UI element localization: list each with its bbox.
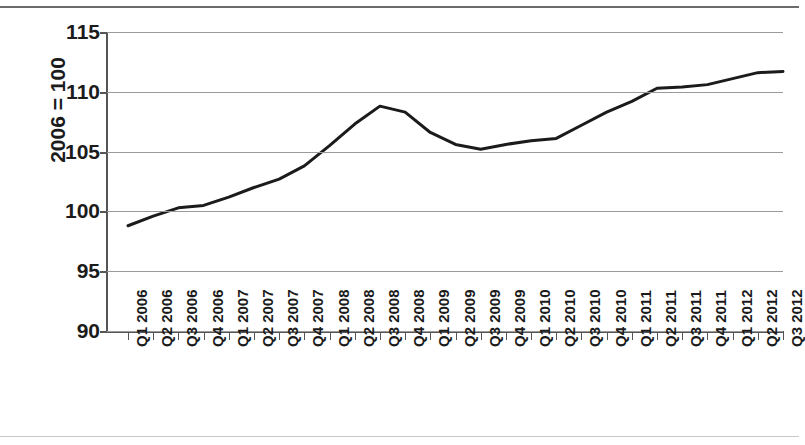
x-axis-tick bbox=[254, 333, 255, 340]
y-axis-tick bbox=[100, 211, 107, 213]
x-axis-tick-label: Q1 2007 bbox=[235, 289, 250, 347]
x-axis-tick bbox=[556, 333, 557, 340]
x-axis-tick-label: Q2 2010 bbox=[562, 289, 577, 347]
x-axis-tick bbox=[733, 333, 734, 340]
y-axis-tick bbox=[100, 331, 107, 333]
x-axis-tick bbox=[330, 333, 331, 340]
x-axis-tick bbox=[481, 333, 482, 340]
y-axis-tick-label: 105 bbox=[54, 141, 100, 162]
x-axis-tick bbox=[707, 333, 708, 340]
x-axis-tick-label: Q2 2009 bbox=[462, 289, 477, 347]
bottom-divider-rule bbox=[0, 436, 799, 437]
x-axis-tick-label: Q1 2006 bbox=[134, 289, 149, 347]
y-axis-tick-label: 115 bbox=[54, 21, 100, 42]
x-axis-tick-label: Q4 2010 bbox=[613, 289, 628, 347]
x-axis-tick bbox=[204, 333, 205, 340]
x-axis-tick bbox=[178, 333, 179, 340]
x-axis-tick-label: Q2 2011 bbox=[663, 290, 678, 347]
line-series-index bbox=[107, 32, 783, 331]
x-axis-tick bbox=[783, 333, 784, 340]
x-axis-tick-label: Q3 2009 bbox=[487, 289, 502, 347]
gridline-y bbox=[107, 271, 783, 272]
x-axis-tick bbox=[607, 333, 608, 340]
x-axis-tick bbox=[153, 333, 154, 340]
x-axis-tick-label: Q4 2011 bbox=[713, 290, 728, 347]
x-axis-tick-label: Q1 2011 bbox=[638, 290, 653, 347]
x-axis-tick-label: Q2 2006 bbox=[159, 289, 174, 347]
x-axis-tick bbox=[682, 333, 683, 340]
gridline-y bbox=[107, 211, 783, 212]
y-axis-tick-label: 95 bbox=[54, 260, 100, 281]
y-axis-tick-label: 100 bbox=[54, 200, 100, 221]
x-axis-tick bbox=[456, 333, 457, 340]
x-axis-tick bbox=[405, 333, 406, 340]
x-axis-tick-label: Q2 2007 bbox=[260, 289, 275, 347]
x-axis-tick bbox=[355, 333, 356, 340]
x-axis-tick bbox=[380, 333, 381, 340]
y-axis-tick bbox=[100, 271, 107, 273]
y-axis-tick bbox=[100, 32, 107, 34]
x-axis-tick-label: Q3 2012 bbox=[789, 289, 804, 347]
x-axis-tick bbox=[430, 333, 431, 340]
y-axis-tick bbox=[100, 152, 107, 154]
y-axis-tick-label: 110 bbox=[54, 81, 100, 102]
x-axis-tick-label: Q1 2012 bbox=[739, 289, 754, 347]
x-axis-tick-label: Q4 2007 bbox=[310, 289, 325, 347]
y-axis-tick-label: 90 bbox=[54, 320, 100, 341]
x-axis-tick bbox=[128, 333, 129, 340]
x-axis-tick-label: Q1 2010 bbox=[537, 289, 552, 347]
top-divider-rule bbox=[0, 6, 799, 8]
x-axis-tick bbox=[632, 333, 633, 340]
x-axis-tick-label: Q4 2009 bbox=[512, 289, 527, 347]
x-axis-tick-label: Q3 2007 bbox=[285, 289, 300, 347]
x-axis-tick-label: Q3 2006 bbox=[184, 289, 199, 347]
x-axis-tick bbox=[279, 333, 280, 340]
y-axis-tick bbox=[100, 92, 107, 94]
x-axis-tick bbox=[506, 333, 507, 340]
gridline-y bbox=[107, 152, 783, 153]
x-axis-tick bbox=[581, 333, 582, 340]
x-axis-tick-label: Q3 2008 bbox=[386, 289, 401, 347]
gridline-y bbox=[107, 92, 783, 93]
x-axis-tick-label: Q3 2011 bbox=[688, 290, 703, 347]
x-axis-tick-label: Q1 2009 bbox=[436, 289, 451, 347]
x-axis-tick-label: Q4 2008 bbox=[411, 289, 426, 347]
x-axis-tick bbox=[229, 333, 230, 340]
x-axis-tick-label: Q2 2008 bbox=[361, 289, 376, 347]
x-axis-tick-label: Q1 2008 bbox=[336, 289, 351, 347]
y-axis-tick-labels: 9095100105110115 bbox=[48, 0, 100, 445]
x-axis-tick bbox=[304, 333, 305, 340]
gridline-y bbox=[107, 32, 783, 33]
x-axis-tick-label: Q3 2010 bbox=[587, 289, 602, 347]
x-axis-tick bbox=[758, 333, 759, 340]
x-axis-tick-label: Q4 2006 bbox=[210, 289, 225, 347]
x-axis-tick bbox=[657, 333, 658, 340]
plot-area bbox=[107, 32, 783, 331]
x-axis-tick-label: Q2 2012 bbox=[764, 289, 779, 347]
x-axis-tick bbox=[531, 333, 532, 340]
